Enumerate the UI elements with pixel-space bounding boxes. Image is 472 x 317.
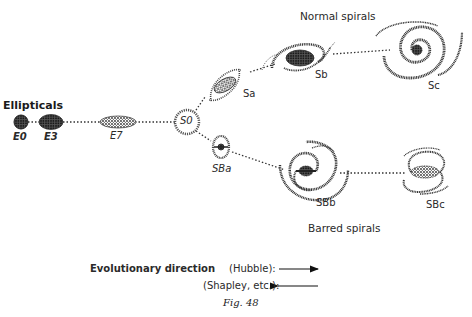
node-label-sba: SBa xyxy=(212,163,231,174)
group-label-barred-spirals: Barred spirals xyxy=(308,222,381,234)
galaxy-sba xyxy=(213,136,229,158)
node-label-sc: Sc xyxy=(428,80,440,91)
node-label-e7: E7 xyxy=(110,130,123,141)
legend-arrows xyxy=(278,269,318,286)
node-label-sb: Sb xyxy=(315,69,328,80)
group-label-ellipticals: Ellipticals xyxy=(3,99,63,112)
galaxy-e0 xyxy=(14,115,28,129)
galaxy-sbc xyxy=(404,148,448,194)
galaxy-e7 xyxy=(100,116,136,128)
figure-caption: Fig. 48 xyxy=(223,297,259,308)
node-label-e0: E0 xyxy=(13,131,27,142)
node-label-sbb: SBb xyxy=(316,197,336,208)
node-label-s0: S0 xyxy=(180,115,193,126)
legend-shapley-label: (Shapley, etc.): xyxy=(203,280,279,291)
node-label-sa: Sa xyxy=(243,88,255,99)
galaxy-sb xyxy=(262,42,335,71)
galaxy-sa xyxy=(202,66,248,103)
node-label-sbc: SBc xyxy=(426,199,445,210)
legend-hubble-label: (Hubble): xyxy=(229,263,276,274)
galaxy-e3 xyxy=(39,115,63,130)
galaxy-sbb xyxy=(280,142,348,200)
group-label-normal-spirals: Normal spirals xyxy=(300,10,376,22)
node-label-e3: E3 xyxy=(44,131,58,142)
legend-title: Evolutionary direction xyxy=(90,263,215,274)
